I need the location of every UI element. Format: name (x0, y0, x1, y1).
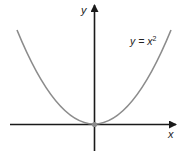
y-axis-label: y (80, 4, 88, 16)
vertex-point (92, 122, 97, 127)
function-label-base: y = x (129, 35, 153, 47)
x-axis-label: x (167, 128, 174, 140)
parabola-diagram: y x y = x2 (0, 0, 187, 160)
function-label: y = x2 (129, 35, 156, 47)
function-label-exponent: 2 (152, 35, 156, 42)
